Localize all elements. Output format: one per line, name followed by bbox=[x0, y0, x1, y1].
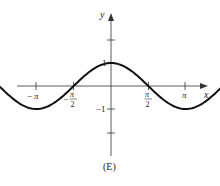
svg-text:π: π bbox=[145, 90, 150, 99]
y-axis-label: y bbox=[99, 9, 105, 20]
x-axis-label: x bbox=[203, 89, 209, 100]
svg-text:−: − bbox=[63, 94, 68, 104]
tick-label-neg-1: −1 bbox=[96, 104, 106, 114]
chart: y x −π − π 2 π 2 π 1 −1 (E) bbox=[0, 0, 220, 186]
tick-label-pi-over-2: π 2 bbox=[145, 90, 153, 109]
svg-text:π: π bbox=[70, 90, 75, 99]
svg-text:2: 2 bbox=[71, 100, 75, 109]
figure-caption: (E) bbox=[103, 161, 116, 173]
y-axis-arrow-icon bbox=[108, 13, 114, 21]
tick-label-1: 1 bbox=[102, 58, 107, 68]
tick-label-neg-pi: −π bbox=[27, 91, 39, 101]
svg-text:2: 2 bbox=[146, 100, 150, 109]
tick-label-pi: π bbox=[182, 90, 187, 100]
